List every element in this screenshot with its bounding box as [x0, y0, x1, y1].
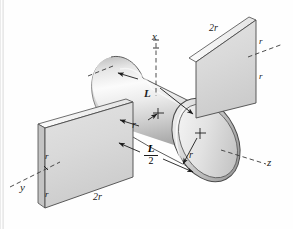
L-half-denominator: 2 — [144, 156, 158, 166]
figure-canvas: x y z L L 2 r r 2r r r 2r r r — [0, 0, 293, 229]
plate-bottom-left-side-thickness — [38, 124, 45, 208]
plate-top-right-lower-half-label: r — [259, 72, 263, 81]
dimension-label-L: L — [144, 88, 151, 99]
axis-label-y: y — [20, 182, 25, 193]
plate-bottom-left-lower-half-label: r — [45, 190, 49, 199]
axis-label-z: z — [267, 157, 271, 168]
plate-top-right — [189, 17, 256, 118]
plate-top-right-width-label: 2r — [209, 23, 218, 33]
plate-bottom-left — [38, 99, 133, 208]
dimension-label-L-over-2: L 2 — [144, 143, 158, 166]
dimension-label-r-axis: r — [132, 120, 136, 130]
L-half-numerator: L — [144, 143, 158, 154]
scan-artifact-line — [3, 0, 4, 229]
plate-top-right-upper-half-label: r — [259, 37, 263, 46]
axis-label-x: x — [152, 31, 157, 42]
scan-artifact-edge — [0, 0, 1, 229]
plate-bottom-left-width-label: 2r — [93, 192, 102, 202]
diagram-svg — [0, 0, 293, 229]
plate-bottom-left-upper-half-label: r — [45, 152, 49, 161]
dimension-label-r-face: r — [189, 150, 193, 160]
